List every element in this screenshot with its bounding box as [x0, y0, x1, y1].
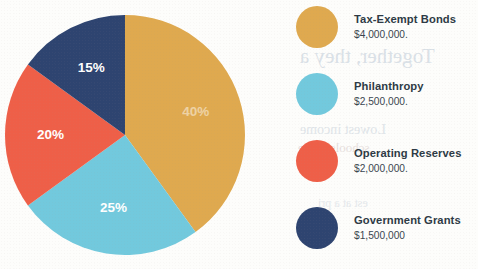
legend-amount: $4,000,000.	[354, 29, 456, 41]
legend-label: Government Grants	[354, 214, 461, 228]
circle-swatch-icon	[296, 140, 338, 182]
legend-item-tax-exempt-bonds[interactable]: Tax-Exempt Bonds $4,000,000.	[296, 6, 478, 48]
legend-amount: $2,500,000.	[354, 96, 424, 108]
legend-amount: $1,500,000	[354, 230, 461, 242]
pie-chart-page: Together, they a rank Lowest income scho…	[0, 0, 478, 269]
pie-slice-label-government-grants: 15%	[78, 60, 105, 75]
legend-item-text: Government Grants $1,500,000	[354, 214, 461, 243]
pie-slice-label-philanthropy: 25%	[100, 200, 127, 215]
pie-chart: 40% 25% 20% 15%	[3, 13, 248, 258]
pie-slice-label-tax-exempt-bonds: 40%	[182, 104, 209, 119]
legend-label: Operating Reserves	[354, 147, 462, 161]
circle-swatch-icon	[296, 6, 338, 48]
circle-swatch-icon	[296, 73, 338, 115]
legend-item-government-grants[interactable]: Government Grants $1,500,000	[296, 207, 478, 249]
legend-item-text: Operating Reserves $2,000,000.	[354, 147, 462, 176]
chart-legend: Tax-Exempt Bonds $4,000,000. Philanthrop…	[296, 0, 478, 269]
legend-item-text: Philanthropy $2,500,000.	[354, 80, 424, 109]
legend-item-text: Tax-Exempt Bonds $4,000,000.	[354, 13, 456, 42]
legend-label: Philanthropy	[354, 80, 424, 94]
pie-chart-svg: 40% 25% 20% 15%	[3, 13, 248, 258]
legend-amount: $2,000,000.	[354, 163, 462, 175]
legend-item-philanthropy[interactable]: Philanthropy $2,500,000.	[296, 73, 478, 115]
legend-label: Tax-Exempt Bonds	[354, 13, 456, 27]
pie-slice-label-operating-reserves: 20%	[37, 127, 64, 142]
circle-swatch-icon	[296, 207, 338, 249]
legend-item-operating-reserves[interactable]: Operating Reserves $2,000,000.	[296, 140, 478, 182]
